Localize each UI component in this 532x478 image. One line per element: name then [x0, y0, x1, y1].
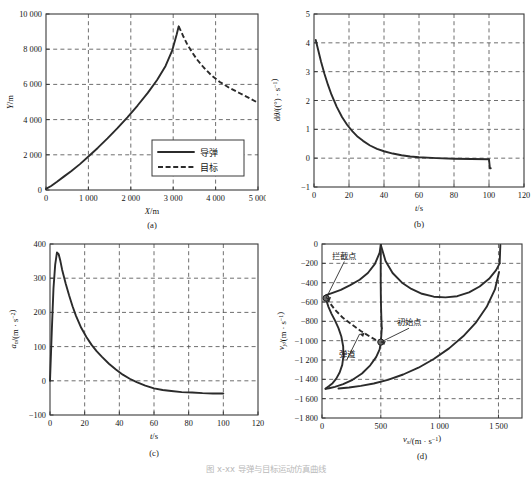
y-tick-label: 2 [306, 97, 310, 106]
y-tick-label: 100 [34, 343, 46, 352]
x-tick-label: 40 [115, 419, 123, 428]
axis-title: vy/(m · s−1) [275, 312, 288, 350]
series-a_n [50, 253, 223, 394]
x-tick-label: 0 [320, 422, 324, 431]
y-tick-label: 10 000 [19, 10, 42, 19]
chart-d: 05001 0001 500−1 800−1 600−1 400−1 200−1… [266, 232, 532, 464]
legend-box [152, 140, 244, 176]
y-tick-label: 0 [38, 186, 42, 195]
series-dθ/dt [316, 40, 491, 168]
x-tick-label: 4 000 [206, 194, 225, 203]
axis-title: vx/(m · s−1) [403, 433, 441, 446]
y-tick-label: 4 [306, 39, 311, 48]
y-tick-label: 1 [306, 125, 310, 134]
y-tick-label: −1 400 [295, 375, 318, 384]
x-tick-label: 0 [312, 191, 316, 200]
y-tick-label: −100 [29, 411, 46, 420]
y-tick-label: 300 [34, 274, 46, 283]
annotation-arrowhead [360, 333, 365, 337]
x-tick-label: 20 [81, 419, 89, 428]
y-tick-label: 4 000 [23, 116, 42, 125]
y-tick-label: 400 [34, 240, 46, 249]
x-tick-label: 0 [48, 419, 52, 428]
y-tick-label: 2 000 [23, 151, 42, 160]
chart-panel-b: 020406080100120−1012345t/sdθ/((°) · s−1)… [266, 0, 532, 232]
axis-title: dθ/((°) · s−1) [269, 79, 282, 122]
series-boundary-upper-right [381, 245, 500, 297]
axis-title: t/s [150, 431, 159, 441]
x-tick-label: 20 [345, 191, 353, 200]
x-tick-label: 40 [380, 191, 388, 200]
y-tick-label: −800 [301, 317, 318, 326]
figure-container: 01 0002 0003 0004 0005 00002 0004 0006 0… [0, 0, 532, 478]
chart-panel-a: 01 0002 0003 0004 0005 00002 0004 0006 0… [0, 0, 266, 232]
x-tick-label: 120 [518, 191, 530, 200]
axis-title: X/m [144, 206, 160, 216]
annotation-label: 拦截点 [332, 251, 356, 261]
x-tick-label: 2 000 [121, 194, 140, 203]
x-tick-label: 120 [252, 419, 264, 428]
y-tick-label: 200 [34, 308, 46, 317]
legend-label: 导弹 [200, 147, 218, 158]
chart-a: 01 0002 0003 0004 0005 00002 0004 0006 0… [0, 0, 266, 232]
chart-c: 020406080100120−1000100200300400t/san/(m… [0, 232, 266, 464]
annotation-label: 弹道 [339, 349, 356, 359]
y-tick-label: −1 200 [295, 356, 318, 365]
y-tick-label: −400 [301, 279, 318, 288]
y-tick-label: 3 [306, 68, 310, 77]
x-tick-label: 1 000 [430, 422, 449, 431]
axis-title: an/(m · s−2) [7, 309, 20, 348]
x-tick-label: 60 [150, 419, 158, 428]
x-tick-label: 5 000 [249, 194, 266, 203]
y-tick-label: 0 [306, 154, 310, 163]
y-tick-label: 5 [306, 10, 310, 19]
chart-panel-c: 020406080100120−1000100200300400t/san/(m… [0, 232, 266, 464]
x-tick-label: 3 000 [164, 194, 183, 203]
x-tick-label: 1 500 [489, 422, 508, 431]
chart-b: 020406080100120−1012345t/sdθ/((°) · s−1)… [266, 0, 532, 232]
y-tick-label: −200 [301, 259, 318, 268]
x-tick-label: 100 [217, 419, 229, 428]
x-tick-label: 80 [185, 419, 193, 428]
y-tick-label: 0 [314, 240, 318, 249]
chart-panel-d: 05001 0001 500−1 800−1 600−1 400−1 200−1… [266, 232, 532, 464]
panel-tag: (c) [149, 448, 159, 458]
axis-title: t/s [415, 203, 424, 213]
x-tick-label: 1 000 [79, 194, 98, 203]
x-tick-label: 500 [375, 422, 387, 431]
figure-caption: 图 x-xx 导弹与目标运动仿真曲线 [0, 462, 532, 474]
y-tick-label: −1 800 [295, 414, 318, 423]
annotation-label: 初始点 [397, 317, 421, 327]
x-tick-label: 80 [450, 191, 458, 200]
annotation-leader-line [381, 328, 409, 342]
y-tick-label: −1 000 [295, 337, 318, 346]
legend-label: 目标 [200, 162, 218, 173]
series-目标 [179, 26, 258, 103]
axis-title: Y/m [5, 95, 15, 109]
series-initial-upward [381, 245, 382, 328]
x-tick-label: 100 [483, 191, 495, 200]
series-boundary-right-rising [500, 245, 501, 263]
y-tick-label: 6 000 [23, 80, 42, 89]
y-tick-label: −600 [301, 298, 318, 307]
y-tick-label: −1 600 [295, 395, 318, 404]
panel-tag: (d) [417, 451, 427, 461]
y-tick-label: 0 [42, 377, 46, 386]
x-tick-label: 60 [415, 191, 423, 200]
panel-tag: (a) [147, 220, 157, 230]
plot-frame [322, 244, 522, 418]
series-left-lobe [326, 298, 344, 389]
x-tick-label: 0 [44, 194, 48, 203]
y-tick-label: 8 000 [23, 45, 42, 54]
panel-tag: (b) [414, 219, 424, 229]
y-tick-label: −1 [301, 183, 310, 192]
